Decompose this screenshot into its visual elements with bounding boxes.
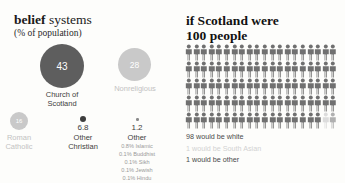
other-religions-breakdown: 0.8% Islamic 0.1% Buddhist 0.1% Sikh 0.1… (105, 143, 169, 183)
person-icon (291, 44, 299, 61)
person-icon (322, 61, 330, 78)
person-icon (246, 95, 254, 112)
legend-item-white: 98 would be white (186, 131, 341, 143)
person-icon (193, 61, 201, 78)
person-icon (246, 44, 254, 61)
person-icon (238, 44, 246, 61)
person-icon (276, 44, 284, 61)
population-panel-title: if Scotland were 100 people (186, 13, 279, 44)
dot-other-christian (80, 116, 86, 122)
person-icon (314, 61, 322, 78)
bubble-church-of-scotland: 43 (40, 44, 84, 88)
person-icon (246, 61, 254, 78)
infographic-root: belief systems (% of population) 43 Chur… (0, 0, 345, 183)
person-icon (307, 44, 315, 61)
page-title: belief systems (14, 13, 92, 27)
label-other: Other (115, 133, 159, 142)
person-icon (261, 61, 269, 78)
person-icon (185, 61, 193, 78)
person-icon (269, 112, 277, 129)
person-icon (329, 61, 337, 78)
person-icon (269, 44, 277, 61)
person-icon (329, 112, 337, 129)
person-icon (269, 61, 277, 78)
person-icon (208, 78, 216, 95)
page-subtitle: (% of population) (14, 28, 82, 38)
page-title-bold: belief (14, 12, 46, 27)
person-icon (223, 78, 231, 95)
person-icon (284, 44, 292, 61)
bubble-roman-catholic: 16 (10, 112, 28, 130)
person-icon (276, 112, 284, 129)
person-icon (329, 44, 337, 61)
person-icon (284, 95, 292, 112)
person-icon (246, 112, 254, 129)
person-icon (208, 95, 216, 112)
page-title-regular: systems (46, 12, 92, 27)
person-icon (307, 78, 315, 95)
person-icon (231, 112, 239, 129)
population-legend: 98 would be white 1 would be South Asian… (186, 131, 341, 166)
person-icon (253, 78, 261, 95)
person-icon (253, 95, 261, 112)
person-icon (314, 44, 322, 61)
person-icon (307, 61, 315, 78)
person-icon (208, 44, 216, 61)
person-icon (291, 61, 299, 78)
person-icon (299, 44, 307, 61)
person-icon (231, 61, 239, 78)
person-icon (208, 112, 216, 129)
person-icon (231, 95, 239, 112)
person-icon (322, 44, 330, 61)
value-other-christian: 6.8 (63, 123, 103, 132)
person-icon (215, 112, 223, 129)
person-icon (223, 112, 231, 129)
person-icon (261, 112, 269, 129)
legend-item-south-asian: 1 would be South Asian (186, 143, 341, 155)
person-icon (284, 78, 292, 95)
person-icon (185, 95, 193, 112)
people-pictogram-grid (185, 44, 337, 129)
value-other: 1.2 (117, 123, 157, 132)
person-icon (329, 95, 337, 112)
person-icon (193, 95, 201, 112)
person-icon (238, 112, 246, 129)
person-icon (238, 95, 246, 112)
legend-item-other: 1 would be other (186, 154, 341, 166)
label-roman-catholic: Roman Catholic (0, 133, 42, 151)
person-icon (291, 112, 299, 129)
person-icon (238, 61, 246, 78)
person-icon (246, 78, 254, 95)
person-icon (276, 61, 284, 78)
person-icon (231, 78, 239, 95)
person-icon (185, 44, 193, 61)
person-icon (322, 78, 330, 95)
person-icon (261, 78, 269, 95)
person-icon (223, 44, 231, 61)
person-icon (322, 95, 330, 112)
person-icon (269, 78, 277, 95)
person-icon (231, 44, 239, 61)
person-icon (223, 95, 231, 112)
person-icon (193, 78, 201, 95)
person-icon (299, 61, 307, 78)
person-icon (200, 44, 208, 61)
label-church-of-scotland: Church of Scotland (32, 90, 92, 108)
person-icon (208, 61, 216, 78)
person-icon (314, 95, 322, 112)
person-icon (322, 112, 330, 129)
person-icon (200, 78, 208, 95)
person-icon (276, 95, 284, 112)
person-icon (215, 44, 223, 61)
person-icon (291, 95, 299, 112)
person-icon (299, 112, 307, 129)
person-icon (193, 112, 201, 129)
person-icon (284, 112, 292, 129)
person-icon (253, 44, 261, 61)
person-icon (200, 95, 208, 112)
person-icon (215, 95, 223, 112)
person-icon (314, 112, 322, 129)
person-icon (276, 78, 284, 95)
person-icon (261, 44, 269, 61)
population-panel: if Scotland were 100 people 98 would be … (172, 0, 345, 183)
